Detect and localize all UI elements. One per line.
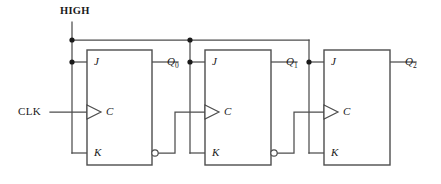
high-supply-label: HIGH bbox=[60, 6, 90, 17]
output-label-q0-base: Q bbox=[167, 55, 175, 67]
output-label-q2: Q2 bbox=[405, 56, 417, 70]
output-label-q0-index: 0 bbox=[175, 61, 179, 70]
junction-dot-ff1-j bbox=[187, 59, 192, 64]
clk-input-label: CLK bbox=[18, 106, 41, 117]
output-label-q2-base: Q bbox=[405, 55, 413, 67]
schematic-svg bbox=[0, 0, 441, 184]
circuit-diagram: HIGH CLK J C K J C K J C K Q0 Q1 Q2 bbox=[0, 0, 441, 184]
junction-dot-ff2-j bbox=[306, 59, 311, 64]
output-label-q2-index: 2 bbox=[413, 61, 417, 70]
ff2-pin-label-c: C bbox=[343, 106, 350, 117]
ff1-pin-label-c: C bbox=[224, 106, 231, 117]
output-label-q1-index: 1 bbox=[294, 61, 298, 70]
ripple-link-0-wire bbox=[158, 112, 205, 153]
ff0-pin-label-j: J bbox=[94, 56, 99, 67]
ff1-pin-label-j: J bbox=[212, 56, 217, 67]
junction-dot-high-ff1 bbox=[187, 37, 192, 42]
output-label-q1-base: Q bbox=[286, 55, 294, 67]
qbar-bubble-icon-1 bbox=[271, 150, 277, 156]
output-label-q1: Q1 bbox=[286, 56, 298, 70]
ripple-link-1-wire bbox=[277, 112, 324, 153]
ff2-pin-label-k: K bbox=[331, 147, 338, 158]
ff2-pin-label-j: J bbox=[331, 56, 336, 67]
ff0-pin-label-c: C bbox=[106, 106, 113, 117]
ff0-pin-label-k: K bbox=[94, 147, 101, 158]
junction-dot-ff0-j bbox=[69, 59, 74, 64]
junction-dot-high-ff0 bbox=[69, 37, 74, 42]
output-label-q0: Q0 bbox=[167, 56, 179, 70]
ff1-pin-label-k: K bbox=[212, 147, 219, 158]
qbar-bubble-icon-0 bbox=[152, 150, 158, 156]
